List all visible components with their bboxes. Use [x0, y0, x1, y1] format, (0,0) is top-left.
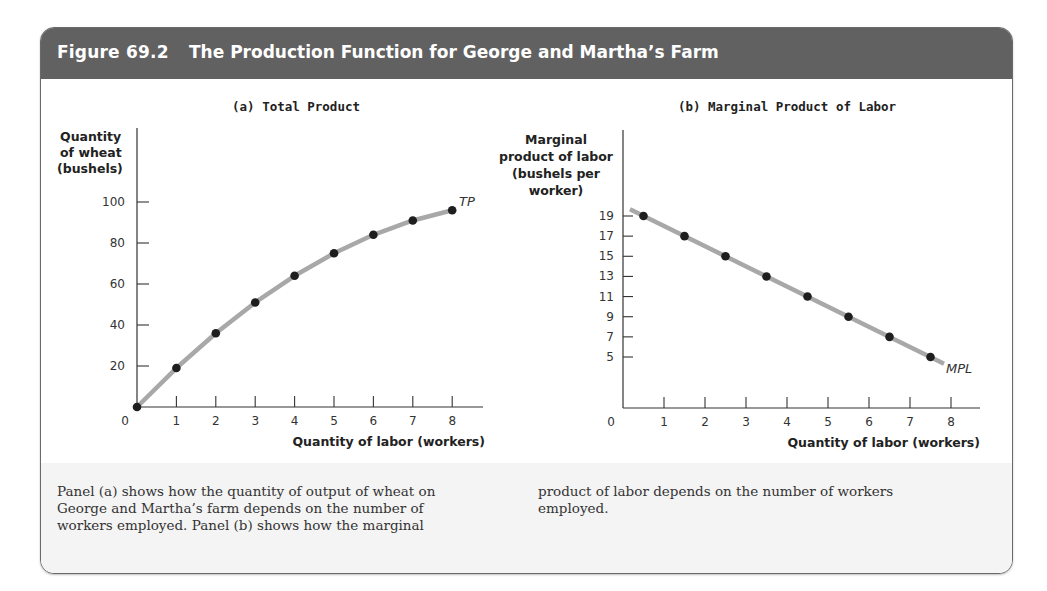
- x-tick-label: 5: [824, 415, 832, 429]
- y-tick-label: 100: [102, 195, 125, 209]
- x-tick-label: 6: [370, 414, 378, 428]
- mpl-data-point: [885, 333, 894, 342]
- y-tick-label: 60: [110, 277, 125, 291]
- tp-data-point: [172, 364, 181, 373]
- panel-b-ylabel-line: Marginal: [525, 132, 587, 147]
- tp-data-point: [409, 216, 418, 225]
- panel-a-x-ticks: 12345678: [173, 396, 456, 428]
- y-tick-label: 15: [599, 249, 614, 263]
- tp-data-point: [133, 403, 142, 412]
- x-tick-label: 2: [701, 415, 709, 429]
- x-tick-label: 8: [947, 415, 955, 429]
- tp-data-point: [212, 329, 221, 338]
- panel-a-total-product: (a) Total Product Quantity of wheat (bus…: [57, 99, 485, 449]
- y-tick-label: 19: [599, 209, 614, 223]
- charts-canvas: (a) Total Product Quantity of wheat (bus…: [0, 0, 1047, 591]
- mpl-data-point: [844, 312, 853, 321]
- panel-b-x-ticks: 12345678: [660, 397, 955, 429]
- x-tick-label: 7: [409, 414, 417, 428]
- panel-b-origin-label: 0: [607, 415, 615, 429]
- panel-a-xlabel: Quantity of labor (workers): [292, 434, 485, 449]
- tp-data-point: [330, 249, 339, 258]
- x-tick-label: 8: [448, 414, 456, 428]
- x-tick-label: 7: [906, 415, 914, 429]
- panel-b-ylabel-line: (bushels per: [512, 166, 601, 181]
- x-tick-label: 3: [251, 414, 259, 428]
- x-tick-label: 1: [173, 414, 181, 428]
- x-tick-label: 4: [291, 414, 299, 428]
- panel-a-ylabel-line: of wheat: [60, 145, 122, 160]
- y-tick-label: 5: [606, 350, 614, 364]
- tp-points: [133, 206, 457, 411]
- panel-a-title: (a) Total Product: [232, 99, 360, 114]
- mpl-curve: [630, 209, 944, 363]
- mpl-data-point: [680, 232, 689, 241]
- panel-b-xlabel: Quantity of labor (workers): [787, 435, 980, 450]
- y-tick-label: 7: [606, 330, 614, 344]
- x-tick-label: 3: [742, 415, 750, 429]
- tp-data-point: [290, 272, 299, 281]
- panel-b-marginal-product: (b) Marginal Product of Labor Marginal p…: [499, 99, 980, 450]
- y-tick-label: 17: [599, 229, 614, 243]
- tp-data-point: [251, 298, 260, 307]
- x-tick-label: 1: [660, 415, 668, 429]
- panel-b-ylabel-line: product of labor: [499, 149, 614, 164]
- panel-b-title: (b) Marginal Product of Labor: [678, 99, 897, 114]
- y-tick-label: 80: [110, 236, 125, 250]
- mpl-data-point: [721, 252, 730, 261]
- panel-b-y-ticks: 5791113151719: [599, 209, 633, 364]
- tp-curve-label: TP: [459, 194, 475, 209]
- tp-curve: [137, 210, 452, 407]
- y-tick-label: 11: [599, 290, 614, 304]
- mpl-data-point: [762, 272, 771, 281]
- x-tick-label: 2: [212, 414, 220, 428]
- panel-a-ylabel-line: (bushels): [57, 161, 123, 176]
- panel-a-ylabel-line: Quantity: [60, 129, 121, 144]
- mpl-data-point: [639, 212, 648, 221]
- y-tick-label: 13: [599, 269, 614, 283]
- x-tick-label: 5: [330, 414, 338, 428]
- tp-data-point: [369, 231, 378, 240]
- y-tick-label: 40: [110, 318, 125, 332]
- mpl-curve-label: MPL: [946, 361, 972, 376]
- panel-b-ylabel-line: worker): [529, 183, 584, 198]
- y-tick-label: 9: [606, 310, 614, 324]
- y-tick-label: 20: [110, 359, 125, 373]
- panel-a-origin-label: 0: [121, 414, 129, 428]
- x-tick-label: 4: [783, 415, 791, 429]
- x-tick-label: 6: [865, 415, 873, 429]
- tp-data-point: [448, 206, 457, 215]
- mpl-data-point: [926, 353, 935, 362]
- mpl-data-point: [803, 292, 812, 301]
- panel-a-y-ticks: 20406080100: [102, 195, 149, 373]
